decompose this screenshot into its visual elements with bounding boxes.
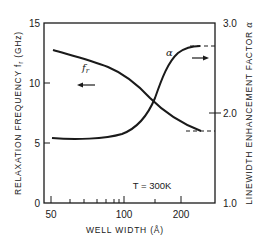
x-axis-title: WELL WIDTH (Å): [86, 225, 164, 235]
y-left-ticks: [44, 83, 50, 143]
plot-frame: [44, 23, 215, 203]
tick-y2-3: 3.0: [223, 18, 237, 29]
tick-y-5: 5: [34, 138, 40, 149]
tick-y-10: 10: [29, 78, 41, 89]
right-arrow-icon: [192, 56, 209, 61]
y-left-axis-title: RELAXATION FREQUENCY fr (GHz): [13, 31, 24, 195]
tick-y2-2: 2.0: [223, 108, 237, 119]
fr-curve: [53, 50, 201, 131]
tick-x-100: 100: [116, 209, 133, 220]
left-arrow-icon: [77, 83, 95, 88]
tick-y2-1: 1.0: [223, 198, 237, 209]
x-ticks: [51, 196, 181, 203]
tick-y-15: 15: [29, 18, 41, 29]
alpha-series-label: α: [166, 47, 173, 58]
tick-x-50: 50: [45, 209, 57, 220]
fr-series-label: fr: [81, 62, 90, 75]
tick-x-200: 200: [173, 209, 190, 220]
y-right-axis-title: LINEWIDTH ENHANCEMENT FACTOR α: [244, 21, 254, 204]
tick-y-0: 0: [34, 198, 40, 209]
alpha-curve: [52, 46, 200, 139]
chart-canvas: 15 10 5 0 3.0 2.0 1.0 50 100 200 WELL WI…: [0, 0, 263, 246]
temperature-annotation: T = 300K: [133, 180, 172, 191]
